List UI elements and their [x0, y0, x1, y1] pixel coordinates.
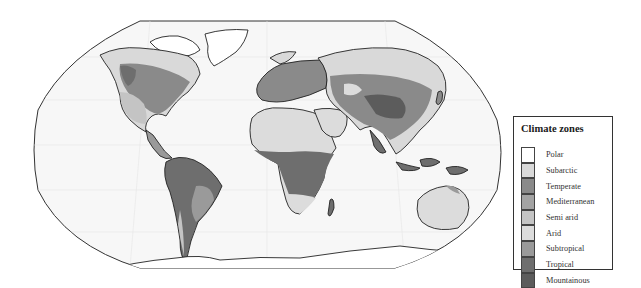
legend-item-mediterranean: Mediterranean — [521, 194, 594, 210]
legend-label: Tropical — [546, 260, 574, 269]
legend-item-subtropical: Subtropical — [521, 241, 594, 257]
swatch-mediterranean — [521, 194, 535, 210]
legend-label: Semi arid — [546, 213, 578, 222]
legend-item-tropical: Tropical — [521, 257, 594, 273]
climate-legend: Climate zones Polar Subarctic Temperate … — [513, 116, 613, 270]
legend-item-arid: Arid — [521, 225, 594, 241]
legend-item-semi-arid: Semi arid — [521, 210, 594, 226]
legend-title: Climate zones — [521, 123, 584, 134]
new-zealand — [472, 231, 486, 242]
swatch-subtropical — [521, 241, 535, 257]
legend-item-temperate: Temperate — [521, 178, 594, 194]
swatch-semi-arid — [521, 210, 535, 226]
legend-label: Polar — [546, 150, 564, 159]
legend-label: Mediterranean — [546, 197, 594, 206]
legend-label: Arid — [546, 229, 561, 238]
legend-items: Polar Subarctic Temperate Mediterranean … — [521, 147, 594, 288]
swatch-polar — [521, 147, 535, 163]
legend-label: Subarctic — [546, 166, 577, 175]
legend-item-subarctic: Subarctic — [521, 163, 594, 179]
legend-label: Subtropical — [546, 244, 584, 253]
swatch-mountainous — [521, 273, 535, 288]
legend-label: Mountainous — [546, 276, 590, 285]
legend-item-polar: Polar — [521, 147, 594, 163]
swatch-arid — [521, 225, 535, 241]
legend-label: Temperate — [546, 182, 581, 191]
swatch-tropical — [521, 257, 535, 273]
legend-item-mountainous: Mountainous — [521, 273, 594, 288]
swatch-temperate — [521, 178, 535, 194]
swatch-subarctic — [521, 163, 535, 179]
